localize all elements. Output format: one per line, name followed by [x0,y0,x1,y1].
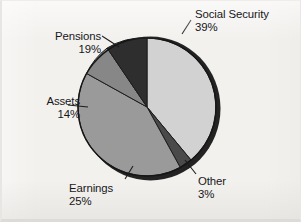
pie-label-pensions: Pensions 19% [25,30,101,57]
pie-label-assets-value: 14% [16,108,80,121]
leader-line-social-security [182,20,191,34]
pie-label-earnings-name: Earnings [69,182,113,195]
pie-label-social-security-value: 39% [195,21,269,34]
pie-label-pensions-name: Pensions [25,30,101,43]
pie-label-other-name: Other [198,175,226,188]
pie-label-social-security: Social Security 39% [195,8,269,35]
pie-label-pensions-value: 19% [25,43,101,56]
pie-chart-figure: Social Security 39% Pensions 19% Assets … [0,0,301,222]
pie-label-other-value: 3% [198,188,226,201]
pie-label-assets-name: Assets [16,95,80,108]
leader-line-pensions [102,36,119,47]
pie-label-social-security-name: Social Security [195,8,269,21]
pie-label-assets: Assets 14% [16,95,80,122]
pie-label-earnings-value: 25% [69,195,113,208]
pie-label-earnings: Earnings 25% [69,182,113,209]
pie-label-other: Other 3% [198,175,226,202]
